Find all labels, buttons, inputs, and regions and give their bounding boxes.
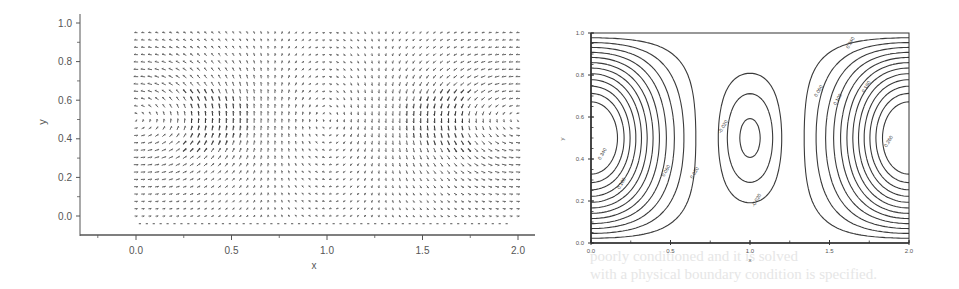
contour-line (591, 86, 909, 190)
contour-line (591, 74, 909, 203)
contour-lines (591, 38, 909, 238)
contour-line (591, 52, 909, 223)
contour-x-tick-label: 2.0 (905, 248, 914, 254)
contour-y-tick-label: 0.4 (576, 156, 585, 162)
contour-level-label: 0.260 (882, 134, 894, 148)
contour-level-label: 0.180 (860, 79, 872, 93)
contour-line (591, 93, 909, 182)
contour-line (591, 102, 909, 174)
contour-x-tick-label: 0.5 (666, 248, 675, 254)
contour-axes: 0.00.20.40.60.81.00.00.51.01.52.0 (576, 30, 914, 254)
contour-y-tick-label: 0.0 (576, 240, 585, 246)
contour-x-tick-label: 0.0 (587, 248, 596, 254)
contour-y-tick-label: 0.8 (576, 72, 585, 78)
contour-x-axis-label: x (749, 257, 752, 263)
contour-y-tick-label: 0.2 (576, 198, 585, 204)
contour-line (591, 38, 909, 238)
contour-line (591, 63, 909, 214)
contour-x-tick-label: 1.5 (825, 248, 834, 254)
contour-y-axis-label: y (559, 138, 565, 141)
contour-line (740, 119, 760, 158)
contour-level-label: 0.020 (688, 166, 700, 180)
contour-x-tick-label: 1.0 (746, 248, 755, 254)
contour-y-tick-label: 1.0 (576, 30, 585, 36)
contour-plot: 0.00.20.40.60.81.00.00.51.01.52.0 0.3400… (0, 0, 959, 289)
contour-line (591, 57, 909, 218)
contour-level-label: 0.340 (596, 147, 608, 161)
contour-plot-frame (591, 33, 909, 243)
contour-y-tick-label: 0.6 (576, 114, 585, 120)
contour-line (727, 94, 772, 183)
